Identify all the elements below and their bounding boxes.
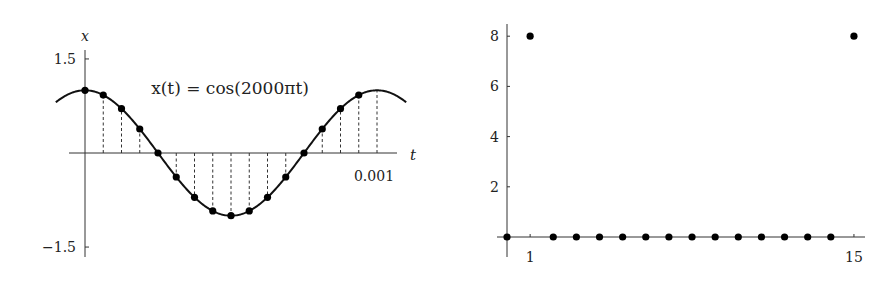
sample-point [227, 212, 234, 219]
data-point [850, 33, 857, 40]
x-tick-label: 1 [526, 249, 535, 265]
sample-point [191, 194, 198, 201]
data-point [596, 233, 603, 240]
y-axis-label: x [81, 28, 89, 44]
sample-point [300, 149, 307, 156]
sample-point [81, 87, 88, 94]
spectrum-plot: 2 4 6 8 1 15 [490, 24, 865, 265]
x-axis-label: t [410, 146, 417, 164]
sample-point [136, 125, 143, 132]
data-point [781, 233, 788, 240]
data-points [503, 33, 857, 241]
data-point [573, 233, 580, 240]
sample-point [154, 149, 161, 156]
data-point [712, 233, 719, 240]
function-annotation: x(t) = cos(2000πt) [151, 78, 309, 98]
cosine-plot: x t 1.5 −1.5 0.001 x(t) = cos(2000πt) [42, 28, 417, 257]
data-point [758, 233, 765, 240]
x-tick-label: 15 [845, 249, 863, 265]
data-point [619, 233, 626, 240]
y-tick-label: 1.5 [54, 51, 76, 67]
y-tick-label: −1.5 [42, 239, 76, 255]
sample-point [100, 91, 107, 98]
data-point [804, 233, 811, 240]
sample-point [355, 91, 362, 98]
data-point [665, 233, 672, 240]
sample-point [118, 105, 125, 112]
data-point [827, 233, 834, 240]
y-tick-label: 2 [490, 179, 499, 195]
data-point [688, 233, 695, 240]
axis-ticks [507, 36, 854, 237]
x-tick-label: 0.001 [354, 168, 394, 184]
figure: x t 1.5 −1.5 0.001 x(t) = cos(2000πt) 2 … [0, 0, 894, 285]
sample-point [264, 194, 271, 201]
sample-point [282, 173, 289, 180]
sample-point [337, 105, 344, 112]
data-point [527, 33, 534, 40]
data-point [503, 233, 510, 240]
data-point [642, 233, 649, 240]
y-tick-label: 4 [490, 129, 499, 145]
sample-point [209, 207, 216, 214]
data-point [550, 233, 557, 240]
y-tick-label: 8 [490, 28, 499, 44]
sample-point [246, 207, 253, 214]
y-tick-label: 6 [490, 78, 499, 94]
data-point [735, 233, 742, 240]
sample-point [173, 173, 180, 180]
sample-point [319, 125, 326, 132]
